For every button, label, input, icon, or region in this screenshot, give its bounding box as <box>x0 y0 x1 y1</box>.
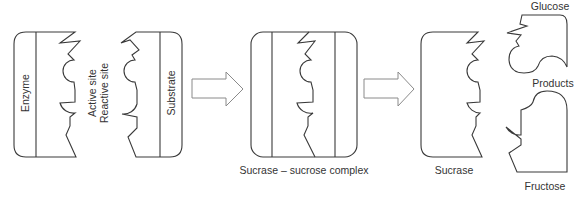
enzyme-diagram: Enzyme Active site Reactive site Substra… <box>0 0 575 201</box>
fructose-label: Fructose <box>525 180 566 192</box>
glucose-label: Glucose <box>531 0 570 12</box>
fructose-shape <box>506 91 567 172</box>
enzyme-label: Enzyme <box>19 74 31 112</box>
reaction-arrow-1 <box>192 72 243 106</box>
complex-shape <box>251 32 357 157</box>
active-site-label: Active site <box>86 69 98 117</box>
sucrase-shape <box>421 32 484 157</box>
reactive-site-label: Reactive site <box>98 63 110 123</box>
complex-label: Sucrase – sucrose complex <box>240 164 370 176</box>
reaction-arrow-2 <box>364 72 414 106</box>
substrate-label: Substrate <box>165 70 177 115</box>
products-label: Products <box>532 77 573 89</box>
glucose-shape <box>507 15 567 73</box>
sucrase-label: Sucrase <box>435 164 474 176</box>
